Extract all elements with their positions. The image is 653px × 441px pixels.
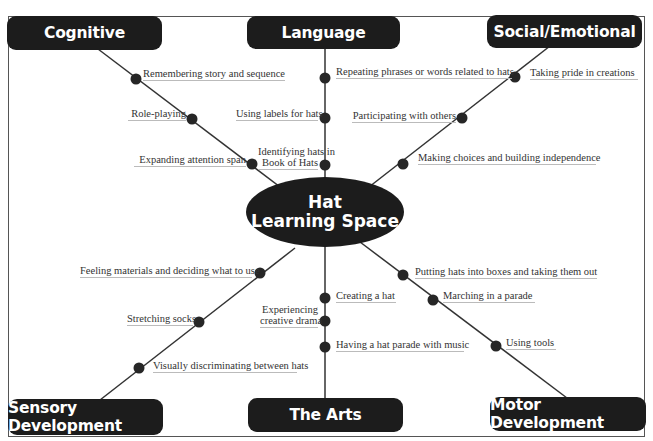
dot-icon [247, 159, 258, 170]
item-label: Putting hats into boxes and taking them … [415, 266, 597, 279]
item-label: Stretching socks [127, 313, 193, 326]
item-label: Using tools [506, 337, 556, 350]
item-label: Participating with others [352, 110, 456, 123]
category-cognitive: Cognitive [7, 16, 162, 50]
item-label: Having a hat parade with music [336, 339, 464, 352]
item-label: Remembering story and sequence [143, 68, 285, 81]
mind-map: Cognitive Language Social/Emotional Sens… [0, 0, 653, 441]
item-label: Expanding attention span [134, 154, 246, 167]
category-language: Language [247, 16, 400, 49]
dot-icon [491, 341, 502, 352]
item-label: Repeating phrases or words related to ha… [336, 66, 512, 79]
dot-icon [187, 114, 198, 125]
dot-icon [320, 342, 331, 353]
category-motor-development: Motor Development [490, 397, 646, 431]
item-label: Making choices and building independence [418, 152, 596, 165]
item-label-multiline: Identifying hats in Book of Hats [258, 146, 318, 170]
item-label: Visually discriminating between hats [153, 360, 297, 373]
category-the-arts: The Arts [248, 398, 403, 432]
item-label: Using labels for hats [236, 108, 318, 121]
dot-icon [320, 73, 331, 84]
center-title-line2: Learning Space [251, 212, 399, 231]
dot-icon [320, 160, 331, 171]
dot-icon [131, 74, 142, 85]
center-node: Hat Learning Space [246, 177, 404, 247]
category-social-emotional: Social/Emotional [487, 15, 642, 48]
item-label: Marching in a parade [443, 290, 535, 303]
item-label: Taking pride in creations [530, 67, 638, 80]
item-label-multiline: Experiencing creative drama [260, 304, 318, 328]
item-label: Role-playing [128, 108, 186, 121]
dot-icon [428, 295, 439, 306]
dot-icon [320, 293, 331, 304]
item-label: Feeling materials and deciding what to u… [80, 265, 252, 278]
dot-icon [398, 270, 409, 281]
center-title-line1: Hat [308, 193, 342, 212]
item-label: Creating a hat [336, 290, 396, 303]
category-sensory-development: Sensory Development [8, 399, 163, 435]
dot-icon [457, 113, 468, 124]
dot-icon [398, 159, 409, 170]
dot-icon [134, 363, 145, 374]
